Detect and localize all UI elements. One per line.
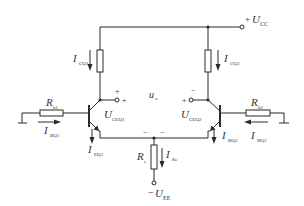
ib2b-label-sub: BQ2 — [257, 138, 267, 143]
node-dot — [206, 25, 209, 28]
emitter-right-sign: − — [160, 128, 165, 137]
differential-amplifier-diagram: + U CC I CQ1 I CQ2 + + U CEQ1 u o − + U … — [0, 0, 304, 206]
ib1-arrow — [38, 120, 61, 125]
re-label: R — [136, 150, 144, 162]
ucc-sign: + — [245, 14, 250, 24]
ic1-label: I — [72, 52, 78, 64]
ie1-label: I — [87, 143, 93, 155]
left-out-right-sign: + — [122, 96, 127, 105]
ie1-label-sub: EQ1 — [94, 152, 104, 157]
ic1-label-sub: CQ1 — [79, 61, 89, 66]
ire-label-sub: Re — [172, 157, 178, 162]
output-terminal-right — [189, 98, 210, 102]
uce1-label-sub: CEQ1 — [112, 117, 125, 122]
rb1-label: R — [45, 96, 53, 108]
base-resistor-left — [18, 110, 89, 123]
uee-sign: − — [148, 187, 154, 198]
ib2-arrow — [244, 120, 268, 125]
ucc-terminal — [240, 25, 244, 29]
ire-arrow — [160, 148, 165, 168]
uee-label-sub: EE — [163, 195, 171, 201]
rb2-label: R — [250, 96, 258, 108]
ib1-label: I — [43, 124, 49, 136]
uee-terminal — [152, 181, 156, 185]
left-out-top-sign: + — [115, 87, 120, 96]
ib1-label-sub: BQ1 — [50, 133, 60, 138]
ib2a-label-sub: BQ2 — [228, 138, 238, 143]
re-label-sub: e — [144, 159, 147, 164]
ic2-label-sub: CQ2 — [230, 61, 240, 66]
uce2-label-sub: CEQ2 — [189, 117, 202, 122]
collector-resistor-right — [205, 50, 211, 100]
collector-resistor-left — [97, 50, 103, 100]
emitter-resistor — [150, 136, 158, 185]
output-terminal-left — [98, 98, 119, 102]
ib2b-label: I — [250, 129, 256, 141]
rb1-label-sub: b1 — [53, 105, 59, 110]
uo-label-sub: o — [155, 96, 158, 101]
emitter-left-sign: − — [143, 128, 148, 137]
right-out-top-sign: − — [191, 86, 196, 95]
ib2a-label: I — [221, 129, 227, 141]
ic2-arrow — [216, 50, 221, 71]
base-resistor-right — [220, 110, 289, 123]
ie2-arrow — [212, 129, 217, 144]
rb2-label-sub: b2 — [258, 105, 264, 110]
ucc-label-sub: CC — [260, 21, 268, 27]
uo-label: u — [149, 89, 154, 100]
ie1-arrow — [90, 129, 95, 144]
supply-rail — [100, 25, 244, 50]
ire-label: I — [165, 148, 171, 160]
ic2-label: I — [223, 52, 229, 64]
right-out-left-sign: + — [182, 96, 187, 105]
